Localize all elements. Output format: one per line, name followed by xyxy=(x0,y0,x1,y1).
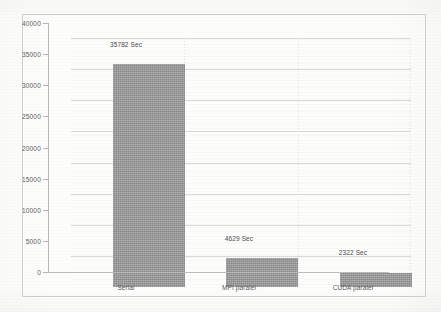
x-axis-label-mpi-paralel: MPI paralel xyxy=(222,284,256,291)
bar-value-label-cuda-paralel: 2322 Sec xyxy=(339,249,367,256)
bar-value-label-serial: 35782 Sec xyxy=(110,41,142,48)
x-axis-label-cuda-paralel: CUDA paralel xyxy=(333,284,374,291)
x-axis-label-serial: Serial xyxy=(117,284,134,291)
bar-value-label-mpi-paralel: 4629 Sec xyxy=(225,235,253,242)
x-axis-labels: Serial MPI paralel CUDA paralel 35782 Se… xyxy=(0,0,441,312)
